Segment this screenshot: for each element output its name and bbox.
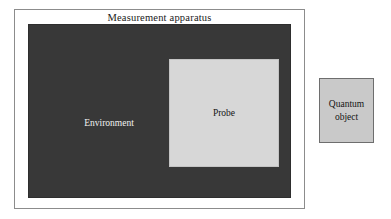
measurement-apparatus-frame: Measurement apparatus Environment Probe: [14, 9, 305, 209]
measurement-apparatus-title: Measurement apparatus: [15, 11, 304, 24]
quantum-object-label-line2: object: [335, 111, 358, 124]
environment-box: Environment Probe: [28, 24, 291, 198]
probe-label: Probe: [170, 107, 278, 119]
quantum-object-box: Quantum object: [319, 78, 374, 143]
quantum-object-label-line1: Quantum: [329, 98, 364, 111]
probe-box: Probe: [169, 59, 279, 167]
diagram-canvas: Measurement apparatus Environment Probe …: [0, 0, 391, 219]
environment-label: Environment: [49, 117, 169, 129]
